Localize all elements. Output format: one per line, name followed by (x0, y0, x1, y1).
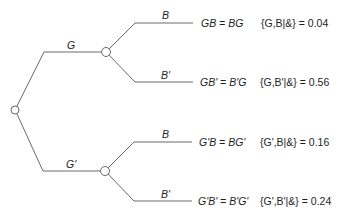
label-G: G (67, 40, 75, 51)
tree-diagram (0, 0, 339, 217)
joint-GBp: GB' = B'G (200, 77, 246, 88)
label-leaf-4: B' (161, 189, 170, 200)
label-G-prime: G' (66, 159, 76, 170)
node-G (102, 48, 111, 57)
branch-G-prime (17, 114, 100, 171)
label-leaf-1: B (162, 10, 169, 21)
branch-G-B-prime (109, 55, 193, 82)
joint-GB: GB = BG (201, 18, 243, 29)
joint-GpBp: G'B' = B'G' (198, 196, 248, 207)
branch-Gp-B (108, 142, 192, 168)
branch-Gp-B-prime (108, 174, 192, 201)
probability-GpBp: {G',B'|&} = 0.24 (260, 196, 331, 207)
branch-G (17, 52, 101, 106)
branch-G-B (109, 23, 193, 49)
probability-GB: {G,B|&} = 0.04 (261, 18, 328, 29)
joint-GpB: G'B = BG' (199, 137, 245, 148)
root-node (11, 106, 19, 114)
probability-GBp: {G,B'|&} = 0.56 (260, 77, 329, 88)
label-leaf-3: B (162, 129, 169, 140)
probability-GpB: {G',B|&} = 0.16 (260, 137, 329, 148)
node-G-prime (101, 167, 110, 176)
label-leaf-2: B' (161, 70, 170, 81)
